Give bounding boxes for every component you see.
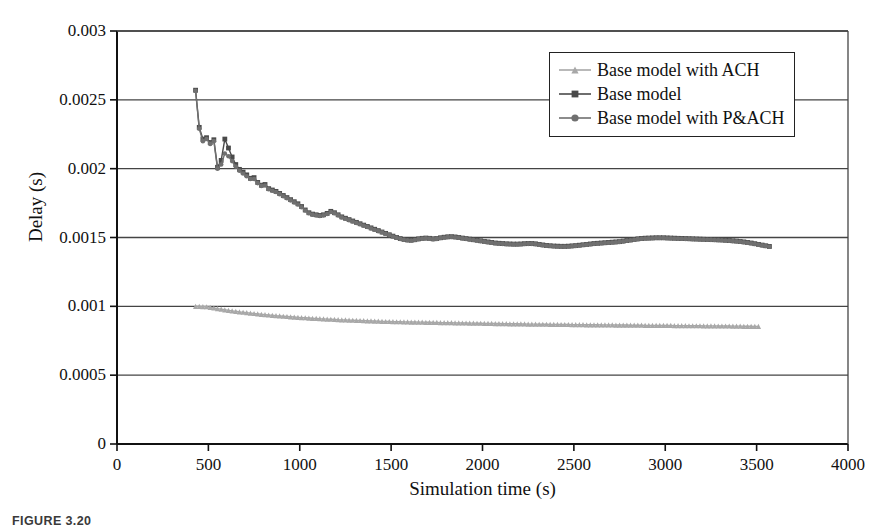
legend-label: Base model with P&ACH bbox=[597, 109, 785, 127]
chart-legend: Base model with ACHBase modelBase model … bbox=[549, 52, 795, 137]
figure-caption: FIGURE 3.20 bbox=[12, 514, 91, 532]
data-point-marker bbox=[222, 137, 227, 142]
x-tick-label: 500 bbox=[168, 456, 248, 473]
x-tick-label: 4000 bbox=[808, 456, 887, 473]
data-point-marker bbox=[223, 151, 228, 156]
data-point-marker bbox=[303, 208, 308, 213]
y-tick-label: 0.0025 bbox=[59, 91, 106, 108]
data-point-marker bbox=[226, 146, 231, 151]
legend-marker-icon bbox=[558, 111, 592, 125]
data-point-marker bbox=[219, 162, 224, 167]
y-tick-label: 0.0015 bbox=[59, 229, 106, 246]
data-point-marker bbox=[230, 159, 235, 164]
figure-root: Delay (s) Simulation time (s) Base model… bbox=[0, 0, 887, 532]
x-tick-label: 3000 bbox=[625, 456, 705, 473]
legend-label: Base model with ACH bbox=[597, 61, 760, 79]
data-point-marker bbox=[193, 89, 198, 94]
legend-item-2[interactable]: Base model with P&ACH bbox=[558, 106, 785, 130]
data-point-marker bbox=[215, 166, 220, 171]
y-tick-label: 0.003 bbox=[68, 22, 106, 39]
data-point-marker bbox=[767, 244, 772, 249]
x-tick-label: 2500 bbox=[534, 456, 614, 473]
y-tick-label: 0.002 bbox=[68, 160, 106, 177]
x-tick-label: 1500 bbox=[351, 456, 431, 473]
x-tick-label: 1000 bbox=[260, 456, 340, 473]
data-point-marker bbox=[226, 154, 231, 159]
data-point-marker bbox=[233, 164, 238, 169]
chart-plot: Delay (s) Simulation time (s) Base model… bbox=[0, 0, 887, 500]
data-point-marker bbox=[197, 126, 202, 131]
y-tick-label: 0.001 bbox=[68, 297, 106, 314]
legend-marker-icon bbox=[558, 87, 592, 101]
data-point-marker bbox=[572, 91, 579, 98]
data-point-marker bbox=[208, 142, 213, 147]
x-tick-label: 3500 bbox=[717, 456, 797, 473]
data-point-marker bbox=[237, 168, 242, 173]
data-point-marker bbox=[252, 177, 257, 182]
legend-label: Base model bbox=[597, 85, 681, 103]
data-point-marker bbox=[296, 202, 301, 207]
data-point-marker bbox=[255, 181, 260, 186]
data-point-marker bbox=[204, 137, 209, 142]
data-point-marker bbox=[263, 183, 268, 188]
y-tick-label: 0 bbox=[98, 435, 107, 452]
data-point-marker bbox=[244, 174, 249, 179]
legend-item-0[interactable]: Base model with ACH bbox=[558, 58, 785, 82]
series-0 bbox=[193, 304, 761, 329]
y-tick-label: 0.0005 bbox=[59, 366, 106, 383]
data-point-marker bbox=[241, 171, 246, 176]
data-point-marker bbox=[299, 205, 304, 210]
y-axis-title: Delay (s) bbox=[25, 147, 47, 267]
legend-item-1[interactable]: Base model bbox=[558, 82, 785, 106]
x-tick-label: 2000 bbox=[443, 456, 523, 473]
legend-marker-icon bbox=[558, 63, 592, 77]
x-tick-label: 0 bbox=[77, 456, 157, 473]
x-axis-title: Simulation time (s) bbox=[117, 478, 848, 500]
data-point-marker bbox=[212, 139, 217, 144]
data-point-marker bbox=[571, 114, 578, 121]
